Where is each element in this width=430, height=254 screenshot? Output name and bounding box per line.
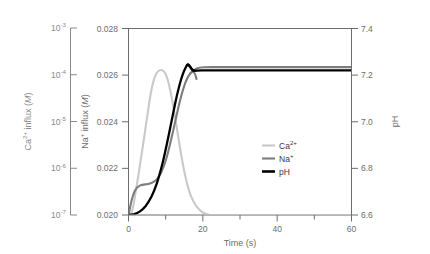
plot-frame	[129, 29, 352, 216]
na-ticklabel-0022: 0.022	[97, 163, 119, 173]
x-axis-title: Time (s)	[224, 238, 257, 248]
ca-ticklabel-1e-5: 10-5	[51, 115, 67, 127]
ca-ticklabel-1e-7: 10-7	[51, 208, 67, 220]
ph-ticklabel-66: 6.6	[361, 210, 373, 220]
chart-svg: 10-3 10-4 10-5 10-6 10-7 Ca2+ influx (M)…	[0, 0, 430, 254]
data-curves	[129, 64, 352, 215]
x-ticklabel-60: 60	[347, 224, 357, 234]
legend-label-ph: pH	[279, 167, 290, 177]
ph-ticklabel-74: 7.4	[361, 24, 373, 34]
na-axis-group: 0.020 0.022 0.024 0.026 0.028 Na+ influx…	[78, 24, 128, 221]
ca-ticklabel-1e-3: 10-3	[51, 21, 67, 33]
legend-label-ca: Ca2+	[279, 139, 297, 151]
ph-axis-group: 6.6 6.8 7.0 7.2 7.4 pH	[352, 24, 401, 221]
ph-ticklabel-68: 6.8	[361, 163, 373, 173]
na-ticklabel-0026: 0.026	[97, 70, 119, 80]
legend-label-na: Na+	[279, 152, 294, 164]
x-ticklabel-20: 20	[198, 224, 208, 234]
ph-ticklabel-72: 7.2	[361, 70, 373, 80]
plot-border	[129, 29, 352, 216]
series-line-na	[129, 72, 197, 215]
ca-axis-group: 10-3 10-4 10-5 10-6 10-7 Ca2+ influx (M)	[21, 21, 77, 220]
x-axis-group: 0 20 40 60 Time (s)	[126, 215, 356, 248]
ca-axis-title: Ca2+ influx (M)	[21, 92, 33, 150]
na-axis-title: Na+ influx (M)	[78, 94, 90, 149]
ph-ticklabel-70: 7.0	[361, 117, 373, 127]
na-ticklabel-0024: 0.024	[97, 117, 119, 127]
figure-panel: 10-3 10-4 10-5 10-6 10-7 Ca2+ influx (M)…	[0, 0, 430, 254]
legend: Ca2+ Na+ pH	[262, 139, 297, 177]
x-ticklabel-0: 0	[126, 224, 131, 234]
x-ticklabel-40: 40	[272, 224, 282, 234]
ca-ticklabel-1e-6: 10-6	[51, 162, 67, 174]
series-line-ca	[129, 70, 352, 215]
ph-axis-title: pH	[390, 116, 400, 128]
ca-ticklabel-1e-4: 10-4	[51, 68, 67, 80]
na-ticklabel-0020: 0.020	[97, 210, 119, 220]
na-ticklabel-0028: 0.028	[97, 24, 119, 34]
